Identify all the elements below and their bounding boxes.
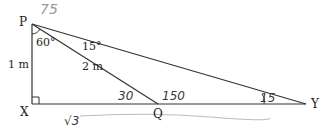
right-angle-marker bbox=[32, 97, 39, 104]
handwritten-underline bbox=[80, 114, 270, 120]
triangle-diagram: P X Q Y 1 m 2 m 60° 15° 75 30 150 15 √3 bbox=[0, 0, 325, 130]
angle-60-label: 60° bbox=[36, 36, 56, 49]
angle-15-label: 15° bbox=[82, 40, 102, 53]
handwritten-15-at-y: 15 bbox=[260, 91, 275, 105]
side-pq-label: 2 m bbox=[82, 60, 103, 73]
handwritten-30: 30 bbox=[118, 89, 134, 103]
point-label-p: P bbox=[19, 15, 27, 29]
point-label-y: Y bbox=[310, 97, 320, 111]
point-label-q: Q bbox=[153, 107, 163, 121]
handwritten-75: 75 bbox=[40, 1, 58, 17]
side-px-label: 1 m bbox=[8, 58, 29, 71]
diagram-svg: P X Q Y 1 m 2 m 60° 15° 75 30 150 15 √3 bbox=[0, 0, 325, 130]
point-label-x: X bbox=[20, 105, 29, 119]
handwritten-sqrt3: √3 bbox=[64, 114, 79, 128]
angle-arc-60 bbox=[32, 29, 40, 34]
handwritten-150: 150 bbox=[162, 89, 185, 103]
